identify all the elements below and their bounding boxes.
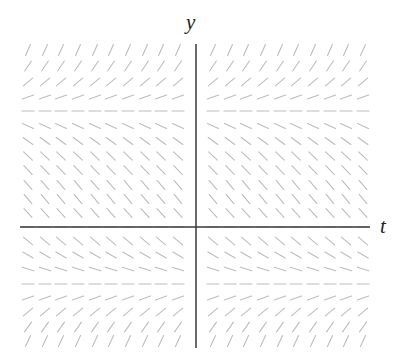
slope-segment (57, 152, 66, 160)
slope-segment (23, 252, 33, 258)
slope-segment (158, 336, 163, 347)
slope-segment (209, 152, 218, 160)
slope-segment (340, 95, 351, 99)
t-axis-label: t (380, 216, 386, 237)
slope-segment (227, 61, 234, 71)
slope-segment (275, 252, 285, 258)
slope-segment (108, 336, 113, 347)
slope-segment (344, 45, 349, 56)
slope-segment (227, 336, 232, 347)
slope-segment (360, 336, 365, 347)
slope-segment (327, 322, 334, 332)
slope-segment (155, 296, 166, 300)
slope-segment (24, 194, 32, 203)
slope-segment (291, 124, 302, 129)
slope-segment (39, 296, 50, 300)
slope-segment (172, 267, 183, 271)
slope-segment (244, 45, 249, 56)
slope-segment (42, 322, 49, 332)
slope-segment (107, 209, 115, 218)
slope-segment (325, 78, 334, 86)
slope-segment (141, 180, 149, 189)
slope-segment (294, 45, 299, 56)
slope-segment (89, 95, 100, 99)
slope-segment (40, 78, 49, 86)
slope-segment (124, 152, 133, 160)
slope-segment (40, 137, 50, 144)
slope-segment (225, 124, 236, 129)
slope-segment (291, 78, 300, 86)
slope-segment (158, 322, 165, 332)
slope-segment (89, 296, 100, 300)
slope-segment (259, 180, 267, 189)
slope-segment (325, 252, 335, 258)
slope-segment (226, 180, 234, 189)
slope-segment (175, 336, 180, 347)
slope-segment (106, 252, 116, 258)
slope-segment (293, 322, 300, 332)
slope-segment (22, 95, 33, 99)
slope-segment (208, 252, 218, 258)
slope-segment (25, 336, 30, 347)
slope-segment (278, 45, 283, 56)
slope-segment (307, 267, 318, 271)
slope-segment (122, 296, 133, 300)
slope-segment (155, 95, 166, 99)
slope-segment (124, 194, 132, 203)
slope-segment (241, 252, 251, 258)
slope-segment (240, 95, 251, 99)
slope-segment (157, 194, 165, 203)
slope-segment (259, 166, 267, 175)
slope-segment (42, 336, 47, 347)
slope-segment (276, 209, 284, 218)
slope-segment (325, 237, 334, 245)
slope-segment (342, 209, 350, 218)
slope-segment (341, 137, 351, 144)
slope-segment (174, 194, 182, 203)
slope-segment (225, 78, 234, 86)
slope-segment (73, 137, 83, 144)
slope-segment (224, 95, 235, 99)
slope-segment (358, 252, 368, 258)
slope-segment (308, 252, 318, 258)
slope-segment (91, 166, 99, 175)
slope-segment (291, 252, 301, 258)
slope-segment (243, 322, 250, 332)
slope-segment (91, 209, 99, 218)
slope-segment (326, 180, 334, 189)
slope-segment (124, 180, 132, 189)
slope-segment (106, 308, 115, 316)
slope-segment (208, 78, 217, 86)
slope-segment (226, 209, 234, 218)
slope-segment (73, 237, 82, 245)
slope-segment (324, 95, 335, 99)
slope-segment (55, 267, 66, 271)
slope-segment (123, 237, 132, 245)
slope-segment (309, 166, 317, 175)
slope-segment (40, 252, 50, 258)
slope-segment (123, 308, 132, 316)
slope-segment (156, 124, 167, 129)
slope-segment (324, 296, 335, 300)
slope-segment (156, 237, 165, 245)
slope-segment (75, 336, 80, 347)
slope-segment (157, 152, 166, 160)
slope-segment (139, 95, 150, 99)
slope-segment (41, 180, 49, 189)
slope-segment (308, 78, 317, 86)
slope-segment (359, 180, 367, 189)
slope-segment (89, 267, 100, 271)
slope-segment (327, 61, 334, 71)
slope-segment (310, 336, 315, 347)
slope-segment (141, 209, 149, 218)
slope-segment (228, 45, 233, 56)
slope-segment (107, 180, 115, 189)
slope-segment (292, 180, 300, 189)
slope-segment (358, 308, 367, 316)
slope-segment (208, 124, 219, 129)
slope-segment (291, 237, 300, 245)
slope-segment (173, 78, 182, 86)
slope-segment (359, 152, 368, 160)
slope-segment (24, 209, 32, 218)
slope-segment (105, 95, 116, 99)
